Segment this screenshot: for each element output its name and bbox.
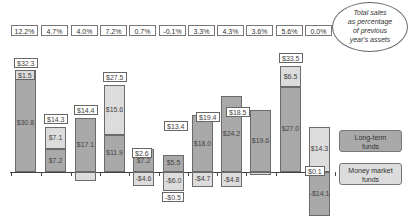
axis-tick: [246, 172, 247, 176]
segment-label: -$4.6: [129, 175, 158, 182]
axis-tick: [41, 172, 42, 176]
pct-label: 12.2%: [11, 25, 38, 36]
pct-label: 4.0%: [71, 25, 98, 36]
annotation-line: year's assets: [333, 35, 407, 44]
segment-label: $11.9: [100, 149, 129, 156]
total-label: $0.1: [305, 166, 325, 176]
axis-tick: [71, 172, 72, 176]
segment-label: -$4.7: [188, 175, 217, 182]
pct-label: 3.6%: [246, 25, 273, 36]
segment-label: $18.0: [188, 140, 217, 147]
segment-label: $30.8: [11, 119, 40, 126]
axis-tick: [100, 172, 101, 176]
annotation-oval: Total sales as percentage of previous ye…: [332, 2, 408, 52]
segment-label: $7.1: [41, 134, 70, 141]
total-label: $14.4: [74, 105, 98, 115]
legend-label: Long-term funds: [351, 133, 391, 151]
pct-label: 3.3%: [188, 25, 215, 36]
segment-label: $15.6: [100, 106, 129, 113]
segment-label: $27.0: [276, 125, 305, 132]
legend-label: Money market funds: [343, 166, 399, 184]
total-label: $13.4: [164, 121, 188, 131]
total-label: $18.5: [226, 107, 250, 117]
money-market-segment: [75, 172, 96, 181]
segment-label: $6.5: [276, 73, 305, 80]
pct-label: 0.7%: [129, 25, 156, 36]
total-label: $2.6: [132, 148, 152, 158]
pct-label: 0.0%: [305, 25, 332, 36]
total-label: $27.5: [103, 72, 127, 82]
annotation-line: as percentage: [333, 17, 407, 26]
total-label: $32.3: [14, 58, 38, 68]
segment-label-box: $1.5: [15, 70, 35, 80]
annotation-line: Total sales: [333, 8, 407, 17]
total-label: -$0.5: [162, 192, 184, 202]
annotation-line: of previous: [333, 26, 407, 35]
axis-tick: [159, 172, 160, 176]
segment-label: -$14.1: [305, 190, 334, 197]
axis-tick: [276, 172, 277, 176]
segment-label: $7.2: [41, 157, 70, 164]
axis-tick: [335, 172, 336, 176]
segment-label: $19.6: [246, 137, 275, 144]
pct-label: 7.2%: [100, 25, 127, 36]
segment-label: $5.5: [159, 159, 188, 166]
pct-label: 5.6%: [276, 25, 303, 36]
segment-label: -$4.8: [217, 176, 246, 183]
axis-tick: [11, 172, 12, 176]
segment-label: $24.2: [217, 130, 246, 137]
segment-label: $17.1: [71, 141, 100, 148]
segment-label: -$6.0: [159, 177, 188, 184]
legend-long-term: Long-term funds: [339, 130, 402, 152]
pct-label: 4.3%: [217, 25, 244, 36]
legend-money-market: Money market funds: [339, 163, 402, 185]
total-label: $19.4: [196, 112, 220, 122]
segment-label: $14.3: [305, 145, 334, 152]
pct-label: 4.7%: [41, 25, 68, 36]
pct-label: -0.1%: [159, 25, 186, 36]
total-label: $33.5: [279, 53, 303, 63]
total-label: $14.3: [44, 114, 68, 124]
money-market-segment: [250, 172, 271, 175]
